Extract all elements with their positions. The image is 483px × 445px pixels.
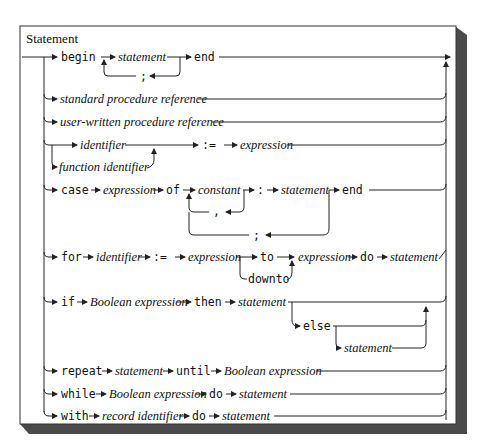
kw-assign: := [202,138,216,152]
syntax-diagram-canvas: Statement begin statement end ; standard… [0,0,483,445]
nt-constant: constant [198,183,241,197]
kw-case: case [61,183,89,197]
kw-while: while [61,387,96,401]
nt-statement: statement [115,364,163,378]
sep-comma: , [213,204,220,218]
kw-of: of [166,183,180,197]
kw-until: until [176,364,211,378]
kw-do: do [209,387,223,401]
kw-repeat: repeat [61,364,103,378]
sep-semicolon: ; [253,228,260,242]
nt-expression: expression [240,138,293,152]
kw-to: to [260,250,274,264]
nt-statement: statement [281,183,329,197]
nt-function-identifier: function identifier [59,160,149,174]
nt-expression: expression [298,250,351,264]
kw-colon: : [257,183,264,197]
syntax-diagram-figure: Statement begin statement end ; standard… [0,0,483,445]
nt-identifier: identifier [96,250,142,264]
kw-end: end [342,183,363,197]
kw-do: do [192,409,206,423]
kw-downto: downto [248,272,290,286]
nt-boolean-expression: Boolean expression [109,387,207,401]
nt-expression: expression [103,183,156,197]
nt-boolean-expression: Boolean expression [90,295,188,309]
nt-user-written-procedure-reference: user-written procedure reference [60,115,224,129]
nt-expression: expression [188,250,241,264]
nt-statement: statement [118,50,166,64]
kw-with: with [61,409,89,423]
sep-semicolon: ; [140,69,147,83]
nt-boolean-expression: Boolean expression [224,364,322,378]
kw-do: do [360,250,374,264]
kw-assign: := [153,250,167,264]
kw-begin: begin [61,50,96,64]
nt-statement: statement [222,409,270,423]
nt-record-identifier: record identifier [102,409,183,423]
nt-standard-procedure-reference: standard procedure reference [60,92,207,106]
nt-statement: statement [238,295,286,309]
kw-if: if [61,295,75,309]
nt-statement: statement [239,387,287,401]
nt-statement: statement [390,250,438,264]
diagram-title: Statement [26,31,78,46]
kw-end: end [194,50,215,64]
nt-identifier: identifier [80,138,126,152]
kw-for: for [61,250,82,264]
kw-else: else [303,319,331,333]
nt-statement: statement [344,341,392,355]
kw-then: then [194,295,222,309]
